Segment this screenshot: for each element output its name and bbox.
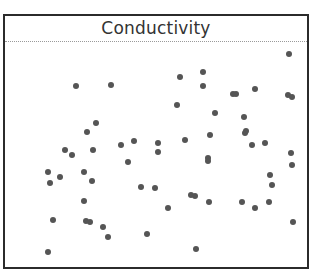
- data-point: [62, 147, 68, 153]
- data-point: [243, 128, 249, 134]
- data-point: [289, 94, 295, 100]
- data-point: [87, 219, 93, 225]
- data-point: [267, 172, 273, 178]
- data-point: [239, 199, 245, 205]
- data-point: [93, 120, 99, 126]
- data-point: [252, 205, 258, 211]
- data-point: [174, 102, 180, 108]
- data-point: [90, 147, 96, 153]
- data-point: [69, 152, 75, 158]
- data-point: [289, 162, 295, 168]
- chart-frame: Conductivity: [3, 14, 309, 269]
- data-point: [138, 184, 144, 190]
- data-point: [206, 199, 212, 205]
- data-point: [177, 74, 183, 80]
- data-point: [50, 217, 56, 223]
- data-point: [108, 82, 114, 88]
- data-point: [45, 249, 51, 255]
- data-point: [105, 234, 111, 240]
- data-point: [155, 140, 161, 146]
- data-point: [207, 132, 213, 138]
- data-point: [262, 140, 268, 146]
- data-point: [249, 142, 255, 148]
- data-point: [269, 182, 275, 188]
- data-point: [89, 178, 95, 184]
- data-point: [152, 185, 158, 191]
- data-point: [252, 86, 258, 92]
- data-point: [266, 199, 272, 205]
- data-point: [84, 129, 90, 135]
- data-point: [290, 219, 296, 225]
- data-point: [212, 110, 218, 116]
- data-point: [155, 149, 161, 155]
- data-point: [45, 169, 51, 175]
- data-point: [81, 169, 87, 175]
- data-point: [241, 114, 247, 120]
- data-point: [144, 231, 150, 237]
- data-point: [288, 150, 294, 156]
- data-point: [192, 193, 198, 199]
- data-point: [125, 159, 131, 165]
- data-point: [100, 224, 106, 230]
- data-point: [182, 137, 188, 143]
- data-point: [118, 142, 124, 148]
- data-point: [73, 83, 79, 89]
- data-point: [165, 205, 171, 211]
- data-point: [205, 158, 211, 164]
- data-point: [193, 246, 199, 252]
- data-point: [57, 174, 63, 180]
- data-point: [233, 91, 239, 97]
- data-point: [81, 198, 87, 204]
- chart-title: Conductivity: [5, 16, 307, 42]
- data-point: [47, 180, 53, 186]
- data-point: [200, 69, 206, 75]
- scatter-plot-area: [5, 42, 307, 267]
- data-point: [131, 138, 137, 144]
- data-point: [286, 51, 292, 57]
- data-point: [200, 83, 206, 89]
